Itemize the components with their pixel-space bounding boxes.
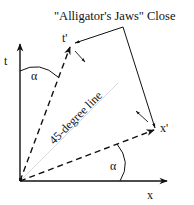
x-prime-axis [20, 130, 154, 181]
t-prime-rotation-arrow [75, 51, 85, 62]
alpha-arc-top [20, 67, 58, 77]
t-axis-label: t [4, 54, 8, 68]
t-prime-label: t' [62, 31, 68, 45]
alpha-arc-bottom [117, 144, 125, 181]
x-axis-label: x [147, 188, 153, 202]
x-prime-rotation-arrow [136, 111, 148, 122]
origin-marker [19, 178, 22, 181]
alligator-jaws-diagram: "Alligator's Jaws" Close t x t' x' α α 4… [0, 0, 194, 205]
diagram-title: "Alligator's Jaws" Close [54, 9, 176, 23]
pointer-to-x-prime [123, 27, 155, 128]
t-prime-axis [20, 47, 70, 181]
alpha-label-bottom: α [110, 159, 117, 173]
x-prime-label: x' [160, 121, 168, 135]
diagonal-line-label: 45-degree line [46, 88, 105, 147]
pointer-to-t-prime [75, 27, 123, 43]
alpha-label-top: α [31, 69, 38, 83]
